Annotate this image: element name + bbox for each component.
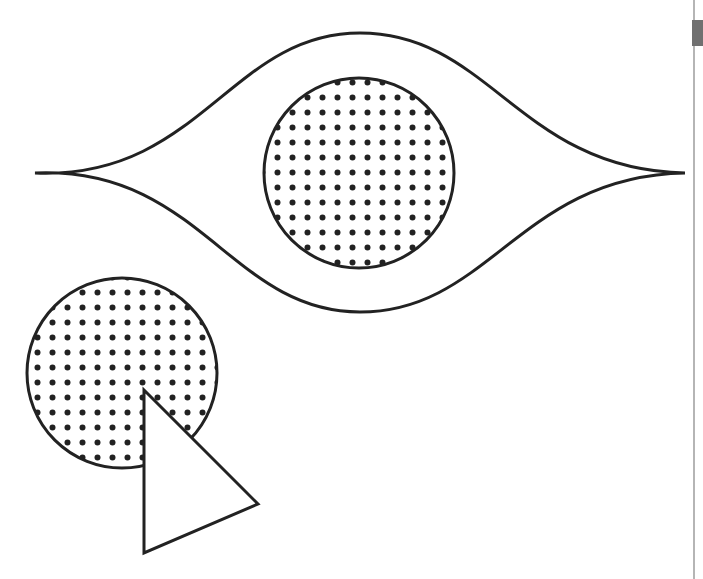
right-divider [693, 0, 695, 579]
eye-pupil [264, 78, 454, 268]
scrollbar-thumb[interactable] [692, 20, 703, 46]
diagram-canvas [0, 0, 703, 579]
